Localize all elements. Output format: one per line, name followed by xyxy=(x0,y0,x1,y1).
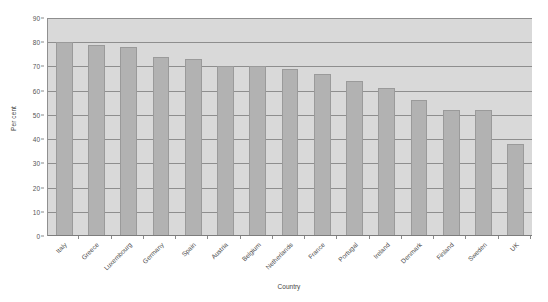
x-axis-tick-label-slot: Italy xyxy=(47,240,79,284)
bar-slot xyxy=(467,18,499,236)
x-axis-tick-label: Sweden xyxy=(466,241,488,263)
x-axis-tick-label: France xyxy=(307,241,326,260)
bar-slot xyxy=(48,18,80,236)
x-axis-tick-label: UK xyxy=(508,241,519,252)
x-axis-tick-label-slot: Netherlands xyxy=(273,240,305,284)
y-axis-tick-label: 20 xyxy=(33,184,40,191)
y-axis-tick-label: 40 xyxy=(33,136,40,143)
x-axis-tick-label-slot: Spain xyxy=(176,240,208,284)
x-axis-tick-label: Italy xyxy=(55,241,68,254)
y-axis-tick-mark xyxy=(41,139,44,140)
bar-slot xyxy=(145,18,177,236)
x-axis-tick-label: Denmark xyxy=(399,241,423,265)
bar[interactable] xyxy=(378,88,395,236)
bar[interactable] xyxy=(153,57,170,236)
x-axis-tick-label: Finland xyxy=(435,241,455,261)
bar-slot xyxy=(177,18,209,236)
bar-slot xyxy=(242,18,274,236)
bar-slot xyxy=(435,18,467,236)
bar[interactable] xyxy=(88,45,105,236)
x-axis-tick-label: Portugal xyxy=(336,241,358,263)
bar-chart-figure: Per cent 9080706050403020100 ItalyGreece… xyxy=(0,0,548,302)
bar[interactable] xyxy=(314,74,331,236)
x-axis-tick-label-slot: France xyxy=(305,240,337,284)
bar-slot xyxy=(274,18,306,236)
bar[interactable] xyxy=(185,59,202,236)
bar-slot xyxy=(371,18,403,236)
x-axis-title: Country xyxy=(47,283,531,290)
bar[interactable] xyxy=(217,66,234,236)
bar[interactable] xyxy=(443,110,460,236)
y-axis-tick-label: 90 xyxy=(33,15,40,22)
y-axis-tick-label: 70 xyxy=(33,63,40,70)
bar[interactable] xyxy=(120,47,137,236)
x-axis-tick-label-slot: Luxembourg xyxy=(112,240,144,284)
y-axis-tick-label: 30 xyxy=(33,160,40,167)
bars-layer xyxy=(48,18,532,236)
bar[interactable] xyxy=(346,81,363,236)
y-axis-tick-labels: 9080706050403020100 xyxy=(18,18,44,236)
x-axis-tick-label: Ireland xyxy=(372,241,391,260)
y-axis-tick-mark xyxy=(41,163,44,164)
bar-slot xyxy=(306,18,338,236)
bar-slot xyxy=(500,18,532,236)
x-axis-tick-label: Spain xyxy=(180,241,197,258)
bar[interactable] xyxy=(249,66,266,236)
y-axis-tick-mark xyxy=(41,18,44,19)
x-axis-tick-label-slot: Germany xyxy=(144,240,176,284)
bar-slot xyxy=(80,18,112,236)
bar-slot xyxy=(403,18,435,236)
y-axis-tick-label: 10 xyxy=(33,208,40,215)
bar[interactable] xyxy=(475,110,492,236)
x-axis-tick-labels: ItalyGreeceLuxembourgGermanySpainAustria… xyxy=(47,240,531,284)
bar-slot xyxy=(113,18,145,236)
y-axis-tick-mark xyxy=(41,66,44,67)
y-axis-tick-mark xyxy=(41,236,44,237)
y-axis-tick-mark xyxy=(41,90,44,91)
x-axis-tick-label-slot: Finland xyxy=(434,240,466,284)
x-axis-tick-label-slot: UK xyxy=(499,240,531,284)
y-axis-tick-label: 60 xyxy=(33,87,40,94)
x-axis-tick-label: Germany xyxy=(141,241,165,265)
y-axis-title-label: Per cent xyxy=(10,105,17,130)
x-axis-tick-label: Belgium xyxy=(240,241,262,263)
y-axis-tick-mark xyxy=(41,42,44,43)
x-axis-tick-label: Austria xyxy=(210,241,229,260)
y-axis-tick-mark xyxy=(41,211,44,212)
x-axis-tick-label-slot: Denmark xyxy=(402,240,434,284)
x-axis-tick-label-slot: Portugal xyxy=(337,240,369,284)
bar[interactable] xyxy=(411,100,428,236)
y-axis-tick-label: 80 xyxy=(33,39,40,46)
y-axis-tick-label: 0 xyxy=(36,233,40,240)
x-axis-tick-label-slot: Ireland xyxy=(370,240,402,284)
bar[interactable] xyxy=(56,42,73,236)
y-axis-tick-mark xyxy=(41,187,44,188)
plot-area xyxy=(47,18,532,236)
y-axis-tick-label: 50 xyxy=(33,111,40,118)
bar-slot xyxy=(338,18,370,236)
bar-slot xyxy=(209,18,241,236)
x-axis-tick-label-slot: Sweden xyxy=(466,240,498,284)
x-axis-tick-label-slot: Austria xyxy=(208,240,240,284)
y-axis-tick-mark xyxy=(41,114,44,115)
x-axis-tick-label: Greece xyxy=(80,241,100,261)
bar[interactable] xyxy=(282,69,299,236)
bar[interactable] xyxy=(507,144,524,236)
